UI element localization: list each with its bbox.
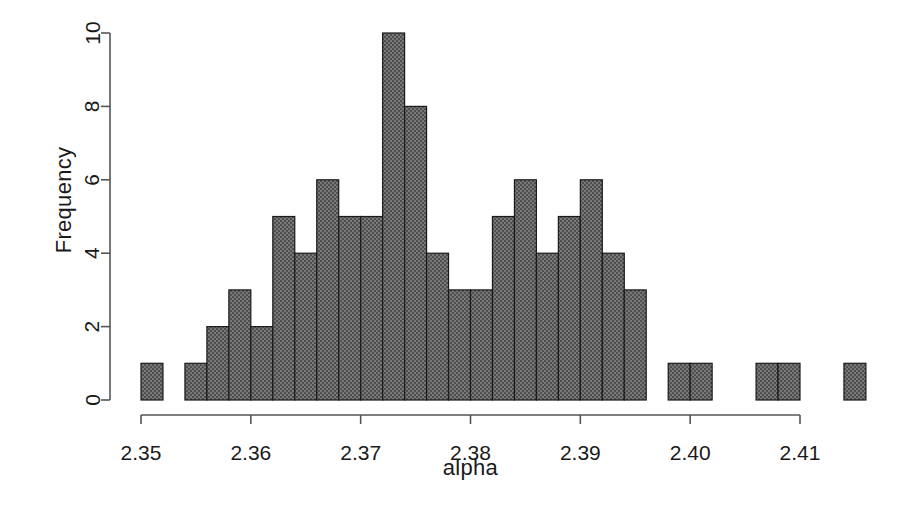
y-axis: 0246810 (81, 21, 111, 406)
x-tick-label: 2.39 (560, 441, 601, 464)
x-tick-label: 2.37 (340, 441, 381, 464)
x-tick-label: 2.35 (121, 441, 162, 464)
histogram-bar (383, 33, 405, 400)
y-tick-label: 2 (81, 321, 104, 333)
histogram-bar (756, 363, 778, 400)
histogram-bar (185, 363, 207, 400)
histogram-bar (624, 290, 646, 400)
histogram-bar (449, 290, 471, 400)
histogram-bar (778, 363, 800, 400)
histogram-bar (207, 327, 229, 400)
histogram-bars (141, 33, 866, 400)
histogram-bar (405, 106, 427, 400)
y-tick-label: 8 (81, 101, 104, 113)
x-tick-label: 2.41 (780, 441, 821, 464)
histogram-bar (317, 180, 339, 400)
x-tick-label: 2.40 (670, 441, 711, 464)
plot-area: 0246810 2.352.362.372.382.392.402.41 (0, 0, 907, 522)
histogram-bar (427, 253, 449, 400)
histogram-bar (602, 253, 624, 400)
histogram-bar (514, 180, 536, 400)
histogram-bar (492, 217, 514, 401)
histogram-figure: Frequency alpha 0246810 2.352.362.372.38… (0, 0, 907, 522)
y-tick-label: 0 (81, 394, 104, 406)
histogram-bar (141, 363, 163, 400)
histogram-bar (251, 327, 273, 400)
x-tick-label: 2.36 (230, 441, 271, 464)
histogram-bar (471, 290, 493, 400)
histogram-bar (339, 217, 361, 401)
histogram-bar (558, 217, 580, 401)
histogram-bar (536, 253, 558, 400)
histogram-bar (361, 217, 383, 401)
x-tick-label: 2.38 (450, 441, 491, 464)
histogram-bar (295, 253, 317, 400)
histogram-bar (273, 217, 295, 401)
histogram-bar (229, 290, 251, 400)
histogram-bar (690, 363, 712, 400)
histogram-bar (844, 363, 866, 400)
y-tick-label: 4 (81, 247, 104, 259)
y-tick-label: 10 (81, 21, 104, 44)
histogram-bar (580, 180, 602, 400)
x-axis: 2.352.362.372.382.392.402.41 (121, 415, 821, 464)
histogram-bar (668, 363, 690, 400)
y-tick-label: 6 (81, 174, 104, 186)
